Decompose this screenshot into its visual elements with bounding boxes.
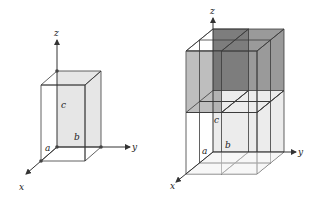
left-unit-cell: z y x c b a xyxy=(19,28,138,192)
z-axis-label: z xyxy=(53,28,59,38)
y-axis-label: y xyxy=(297,147,304,157)
edge-label-b: b xyxy=(225,140,231,150)
edge-label-b: b xyxy=(74,132,80,142)
edge-label-c: c xyxy=(61,100,66,110)
crystal-unit-cell-diagram: z y x c b a xyxy=(0,0,320,200)
edge-label-a: a xyxy=(45,143,50,153)
edge-label-c: c xyxy=(214,115,219,125)
y-axis-label: y xyxy=(131,142,138,152)
x-axis-label: x xyxy=(19,182,24,192)
right-cell-block: z y x c b a xyxy=(170,6,304,191)
z-axis-label: z xyxy=(209,6,215,16)
x-axis-label: x xyxy=(170,181,175,191)
edge-label-a: a xyxy=(202,146,207,156)
